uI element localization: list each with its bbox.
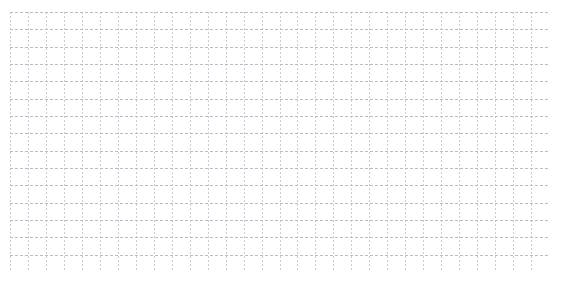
page-canvas bbox=[0, 0, 564, 284]
grid-sheet[interactable] bbox=[10, 12, 549, 272]
dotted-grid bbox=[10, 12, 549, 272]
